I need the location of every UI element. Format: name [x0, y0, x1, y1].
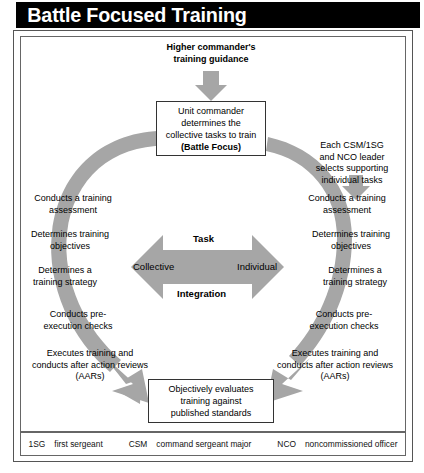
legend-item-csm: CSM command sergeant major	[129, 439, 252, 449]
left-step-4: Conducts pre- execution checks	[23, 309, 133, 332]
unit-commander-box: Unit commander determines the collective…	[156, 101, 266, 156]
legend-term-1sg: first sergeant	[54, 439, 102, 449]
unit-commander-line-1: Unit commander	[178, 105, 244, 117]
legend-abbr-nco: NCO	[277, 439, 296, 449]
task-label: Task	[193, 233, 214, 244]
integration-label: Integration	[177, 288, 226, 299]
left-step-2: Determines training objectives	[11, 229, 129, 252]
legend-term-csm: command sergeant major	[156, 439, 251, 449]
left-step-3: Determines a training strategy	[9, 265, 121, 288]
right-step-5: Executes training and conducts after act…	[262, 348, 408, 383]
right-step-4: Conducts pre- execution checks	[288, 309, 400, 332]
right-step-3: Determines a training strategy	[298, 265, 412, 288]
legend-item-nco: NCO noncommissioned officer	[277, 439, 397, 449]
legend-abbr-1sg: 1SG	[29, 439, 46, 449]
higher-commander-guidance-label: Higher commander's training guidance	[137, 42, 285, 65]
objectively-evaluates-box: Objectively evaluates training against p…	[148, 379, 274, 423]
right-step-1: Conducts a training assessment	[286, 193, 408, 216]
abbreviation-legend: 1SG first sergeant CSM command sergeant …	[20, 432, 406, 456]
unit-commander-line-4: (Battle Focus)	[181, 141, 241, 153]
legend-item-1sg: 1SG first sergeant	[29, 439, 103, 449]
legend-abbr-csm: CSM	[129, 439, 148, 449]
legend-term-nco: noncommissioned officer	[305, 439, 397, 449]
diagram-page: Battle Focused Training	[0, 0, 424, 473]
unit-commander-line-2: determines the	[181, 117, 241, 129]
collective-label: Collective	[133, 261, 174, 272]
left-step-5: Executes training and conducts after act…	[20, 348, 160, 383]
individual-label: Individual	[237, 261, 277, 272]
unit-commander-line-3: collective tasks to train	[166, 129, 257, 141]
evaluate-line-2: training against	[180, 395, 241, 407]
page-title: Battle Focused Training	[16, 3, 247, 27]
evaluate-line-1: Objectively evaluates	[168, 383, 253, 395]
left-step-1: Conducts a training assessment	[14, 193, 132, 216]
evaluate-line-3: published standards	[171, 407, 252, 419]
right-step-2: Determines training objectives	[290, 229, 412, 252]
title-bar: Battle Focused Training	[16, 2, 420, 28]
csm-1sg-nco-note: Each CSM/1SG and NCO leader selects supp…	[292, 140, 412, 186]
